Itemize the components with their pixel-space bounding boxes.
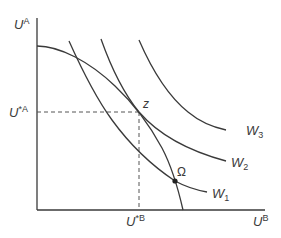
w2-label: W2	[231, 155, 248, 172]
omega-point-label: Ω	[177, 165, 186, 179]
indifference-curve-w1	[69, 41, 207, 192]
w1-label: W1	[212, 186, 229, 203]
u-star-b-label: U*B	[126, 213, 145, 229]
u-star-a-label: U*A	[9, 104, 28, 120]
welfare-diagram: UA UB U*A U*B z Ω W1 W2 W3	[0, 0, 281, 238]
indifference-curve-w2	[101, 39, 226, 161]
w3-label: W3	[246, 123, 263, 140]
reference-lines	[37, 112, 139, 210]
utility-possibility-frontier	[37, 46, 183, 210]
y-axis-label: UA	[14, 16, 29, 32]
omega-point	[172, 178, 177, 183]
z-point-label: z	[142, 97, 149, 111]
x-axis-label: UB	[253, 213, 268, 229]
indifference-curve-w3	[139, 40, 226, 130]
